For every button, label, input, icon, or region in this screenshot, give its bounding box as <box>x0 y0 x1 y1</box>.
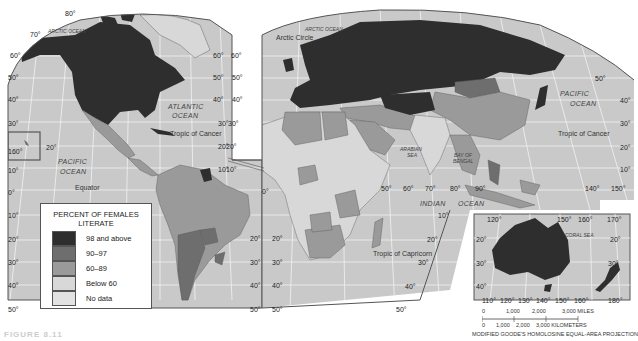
lat-label: 20° <box>620 144 631 151</box>
lon-label: 70° <box>425 185 436 192</box>
australia-inset <box>474 214 630 300</box>
lat-label: 20° <box>250 235 261 242</box>
lat-label: 30° <box>272 259 283 266</box>
lon-label: 160° <box>578 216 592 223</box>
lat-label: 50° <box>8 306 19 313</box>
lat-label: 50° <box>272 306 283 313</box>
lat-label: 20° <box>46 144 57 151</box>
ocean-label-atlantic: OCEAN <box>172 112 198 119</box>
lon-label: 170° <box>607 216 621 223</box>
lat-label: 60° <box>231 52 242 59</box>
lat-label: 30° <box>8 120 19 127</box>
lat-label: 50° <box>213 74 224 81</box>
lon-label: 160° <box>574 297 588 304</box>
lat-label: 30° <box>620 120 631 127</box>
lat-label: 50° <box>8 74 19 81</box>
lat-label: 50° <box>232 74 243 81</box>
tropic-of-cancer-label: Tropic of Cancer <box>170 130 221 137</box>
lon-label: 0° <box>262 188 269 195</box>
legend-swatch <box>52 261 76 276</box>
ocean-label-indian: INDIAN <box>420 200 446 207</box>
legend-item: No data <box>52 291 148 306</box>
ocean-label-atlantic: ATLANTIC <box>168 103 204 110</box>
lon-label: 80° <box>450 185 461 192</box>
ocean-label-bay-of-bengal: BENGAL <box>453 158 473 164</box>
ocean-label-coral-sea: CORAL SEA <box>565 232 594 238</box>
figure-label: FIGURE 8.11 <box>4 330 63 339</box>
lat-label: 10° <box>8 212 19 219</box>
lat-label: 10° <box>8 167 19 174</box>
legend-swatch <box>52 246 76 261</box>
lon-label: 120° <box>487 216 501 223</box>
ocean-label-pacific: OCEAN <box>60 168 86 175</box>
legend-item: 90–97 <box>52 246 148 261</box>
lat-label: 40° <box>232 96 243 103</box>
lat-label: 30° <box>228 120 239 127</box>
lat-label: 60° <box>10 52 21 59</box>
lon-label: 130° <box>518 297 532 304</box>
lat-label: 70° <box>30 31 41 38</box>
legend-swatch <box>52 276 76 291</box>
lon-label: 150° <box>557 216 571 223</box>
arctic-circle-label: Arctic Circle <box>276 34 313 41</box>
lat-label: 40° <box>8 282 19 289</box>
lat-label: 30° <box>8 259 19 266</box>
legend-title: PERCENT OF FEMALES LITERATE <box>41 210 151 228</box>
lon-label: 80° <box>65 10 76 17</box>
lat-label: 40° <box>8 96 19 103</box>
tropic-of-cancer-label: Tropic of Cancer <box>558 130 609 137</box>
ocean-label-pacific: PACIFIC <box>58 158 87 165</box>
lat-label: 40° <box>213 96 224 103</box>
lat-label: 30° <box>608 260 619 267</box>
lon-label: 160° <box>8 148 22 155</box>
lat-label: 40° <box>620 97 631 104</box>
lat-label: 60° <box>213 52 224 59</box>
lat-label: 40° <box>405 283 416 290</box>
lat-label: 20° <box>272 235 283 242</box>
ocean-label-arctic: ARCTIC OCEAN <box>305 26 343 32</box>
lat-label: 50° <box>250 306 261 313</box>
legend-item: Below 60 <box>52 276 148 291</box>
lon-label: 120° <box>500 297 514 304</box>
lat-label: 30° <box>418 259 429 266</box>
lat-label: 20° <box>226 143 237 150</box>
legend: PERCENT OF FEMALES LITERATE 98 and above… <box>40 203 152 309</box>
lon-label: 50° <box>381 185 392 192</box>
lat-label: 50° <box>396 306 407 313</box>
lat-label: 20° <box>610 236 621 243</box>
ocean-label-indian: OCEAN <box>458 200 484 207</box>
lon-label: 110° <box>482 297 496 304</box>
lon-label: 140° <box>585 185 599 192</box>
ocean-label-arabian-sea: SEA <box>407 152 417 158</box>
lat-label: 40° <box>476 283 487 290</box>
lat-label: 10° <box>620 166 631 173</box>
lat-label: 10° <box>226 166 237 173</box>
legend-item: 60–89 <box>52 261 148 276</box>
lon-label: 150° <box>555 297 569 304</box>
lat-label: 20° <box>476 236 487 243</box>
legend-item: 98 and above <box>52 231 148 246</box>
lat-label: 30° <box>250 259 261 266</box>
projection-label: MODIFIED GOODE'S HOMOLOSINE EQUAL-AREA P… <box>472 331 638 337</box>
lat-label: 10° <box>438 212 449 219</box>
lat-label: 40° <box>250 282 261 289</box>
lat-label: 40° <box>272 282 283 289</box>
lat-label: 30° <box>476 260 487 267</box>
lon-label: 90° <box>475 185 486 192</box>
ocean-label-pacific: OCEAN <box>570 100 596 107</box>
lon-label: 60° <box>403 185 414 192</box>
ocean-label-arctic: ARCTIC OCEAN <box>48 28 86 34</box>
lat-label: 30° <box>218 120 229 127</box>
lat-label: 0° <box>8 189 15 196</box>
ocean-label-pacific: PACIFIC <box>560 90 589 97</box>
legend-swatch <box>52 231 76 246</box>
lat-label: 50° <box>595 75 606 82</box>
tropic-of-capricorn-label: Tropic of Capricorn <box>373 250 432 257</box>
equator-label: Equator <box>75 184 100 191</box>
legend-swatch <box>52 291 76 306</box>
lon-label: 180° <box>608 297 622 304</box>
lat-label: 20° <box>427 236 438 243</box>
lat-label: 20° <box>8 236 19 243</box>
lon-label: 150° <box>611 185 625 192</box>
lon-label: 140° <box>536 297 550 304</box>
